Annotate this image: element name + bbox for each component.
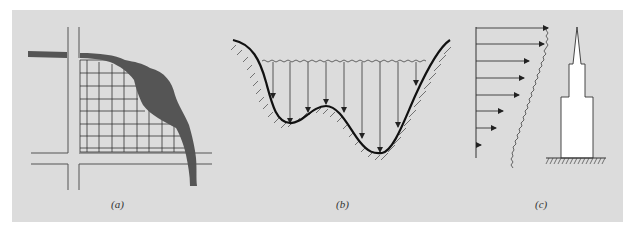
caption-b: (b): [336, 198, 349, 210]
caption-c: (c): [535, 198, 547, 210]
pressure-arrows: [273, 62, 416, 152]
foundation-hatching: [546, 158, 605, 164]
water-surface: [262, 60, 426, 62]
caption-a: (a): [111, 198, 124, 210]
diagram-c: [476, 27, 606, 168]
wind-profile: [511, 27, 548, 168]
diagram-b: [231, 40, 451, 160]
tower: [561, 27, 593, 158]
ground-profile: [233, 40, 450, 153]
diagram-a: [28, 27, 212, 190]
wind-load-arrows: [476, 28, 548, 145]
roads: [31, 27, 212, 190]
ground-hatching: [231, 45, 451, 160]
river: [28, 51, 197, 186]
